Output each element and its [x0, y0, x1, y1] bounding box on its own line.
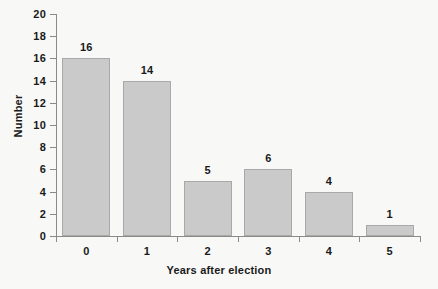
- y-axis-title: Number: [12, 86, 24, 146]
- y-axis-tick-label: 18: [0, 31, 46, 42]
- x-axis-tick: [420, 236, 421, 242]
- y-axis-tick: [50, 192, 56, 193]
- y-axis-tick-label: 14: [0, 76, 46, 87]
- y-axis-tick-label: 6: [0, 164, 46, 175]
- bar-value-label: 16: [56, 42, 116, 53]
- y-axis-tick-label: 16: [0, 53, 46, 64]
- x-axis-tick: [117, 236, 118, 242]
- x-axis-tick-label: 2: [178, 246, 238, 257]
- y-axis-tick-label: 20: [0, 9, 46, 20]
- bar: [305, 192, 353, 236]
- bar-value-label: 4: [299, 176, 359, 187]
- y-axis-tick-label: 2: [0, 209, 46, 220]
- x-axis-tick: [299, 236, 300, 242]
- bar: [184, 181, 232, 237]
- x-axis-tick: [238, 236, 239, 242]
- y-axis-tick: [50, 14, 56, 15]
- y-axis-tick-label: 0: [0, 231, 46, 242]
- x-axis-title: Years after election: [0, 264, 438, 276]
- x-axis-tick: [56, 236, 57, 242]
- y-axis-tick-label: 4: [0, 187, 46, 198]
- y-axis-tick: [50, 58, 56, 59]
- bar-value-label: 6: [238, 153, 298, 164]
- bar-chart-figure: 02468101214161820 012345 16145641 Number…: [0, 0, 438, 289]
- bar: [62, 58, 110, 236]
- y-axis-tick: [50, 103, 56, 104]
- x-axis-tick: [177, 236, 178, 242]
- bar: [123, 81, 171, 236]
- x-axis-tick-label: 5: [360, 246, 420, 257]
- x-axis-tick-label: 4: [299, 246, 359, 257]
- y-axis-tick: [50, 214, 56, 215]
- y-axis-tick: [50, 81, 56, 82]
- y-axis-tick: [50, 125, 56, 126]
- bar: [366, 225, 414, 236]
- x-axis-tick-label: 1: [117, 246, 177, 257]
- bar-value-label: 5: [178, 165, 238, 176]
- x-axis-tick-label: 0: [56, 246, 116, 257]
- y-axis-tick: [50, 36, 56, 37]
- x-axis-tick-label: 3: [238, 246, 298, 257]
- bar-value-label: 14: [117, 65, 177, 76]
- bar-value-label: 1: [360, 209, 420, 220]
- bar: [244, 169, 292, 236]
- y-axis-tick: [50, 169, 56, 170]
- y-axis-tick: [50, 147, 56, 148]
- x-axis-tick: [359, 236, 360, 242]
